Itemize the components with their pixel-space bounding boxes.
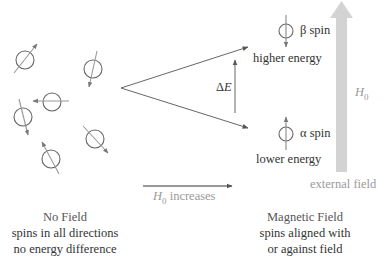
external-field-label: external field — [310, 177, 376, 192]
spin-icon — [83, 126, 108, 153]
magnetic-field-line1: spins aligned with — [245, 225, 365, 241]
spin-icon — [84, 51, 102, 87]
magnetic-field-heading: Magnetic Field — [245, 209, 365, 225]
h0-field-label: H0 — [355, 85, 369, 105]
h0-increases-label: H0 increases — [153, 189, 215, 209]
h-variable: H — [355, 85, 364, 99]
magnetic-field-caption: Magnetic Field spins aligned with or aga… — [245, 209, 365, 257]
alpha-spin-label: α spin — [300, 126, 331, 141]
magnetic-field-line2: or against field — [245, 241, 365, 257]
beta-spin-label: β spin — [300, 23, 330, 38]
h-variable: H — [153, 189, 162, 203]
spin-icon — [42, 142, 60, 174]
lower-energy-label: lower energy — [256, 152, 321, 167]
no-field-caption: No Field spins in all directions no ener… — [0, 209, 130, 257]
no-field-line1: spins in all directions — [0, 225, 130, 241]
delta-e-label: ΔE — [216, 80, 232, 95]
external-field-arrow — [330, 1, 353, 172]
energy-variable: E — [224, 80, 232, 94]
spin-icon — [14, 99, 32, 135]
random-spins — [14, 44, 108, 174]
increases-text: increases — [167, 189, 216, 203]
spin-icon — [33, 93, 69, 111]
no-field-line2: no energy difference — [0, 241, 130, 257]
alpha-spin-icon — [279, 117, 293, 150]
higher-energy-label: higher energy — [253, 51, 322, 66]
delta-symbol: Δ — [216, 80, 224, 94]
no-field-heading: No Field — [0, 209, 130, 225]
spin-icon — [14, 44, 37, 73]
h-subscript: 0 — [364, 92, 369, 102]
beta-spin-icon — [279, 15, 293, 47]
